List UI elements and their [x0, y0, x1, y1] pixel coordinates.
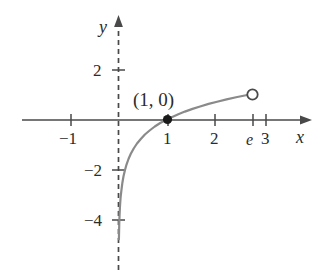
- x-axis-arrowhead: [300, 116, 312, 125]
- y-tick-label-neg4: −4: [84, 212, 102, 229]
- open-circle-marker: [247, 89, 257, 99]
- x-tick-label-3: 3: [261, 130, 270, 147]
- x-tick-label-neg1: −1: [59, 130, 77, 147]
- point-annotation-label: (1, 0): [133, 90, 174, 109]
- y-axis-arrowhead: [114, 15, 123, 27]
- y-tick-label-neg2: −2: [84, 162, 102, 179]
- x-tick-label-e: e: [246, 132, 253, 148]
- x-axis-label: x: [296, 128, 304, 146]
- y-tick-label-2: 2: [93, 62, 102, 79]
- x-tick-label-1: 1: [163, 130, 172, 147]
- y-axis-label: y: [99, 18, 107, 36]
- ln-curve: [119, 95, 247, 239]
- closed-circle-marker: [163, 115, 172, 124]
- logarithm-graph-figure: y x 2 −2 −4 −1 1 2 e 3 (1, 0): [0, 0, 333, 276]
- x-tick-label-2: 2: [210, 130, 219, 147]
